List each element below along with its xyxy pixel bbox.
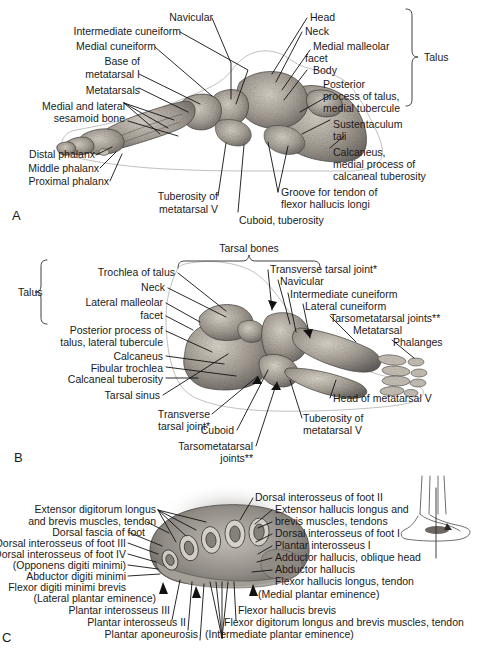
bracket-label-talus: Talus [424, 51, 449, 63]
label-sesamoid-line1: Medial and lateral [42, 100, 125, 112]
label-phalanges: Phalanges [393, 336, 443, 348]
panel-b-svg: Trochlea of talus Neck Lateral malleolar… [0, 230, 479, 470]
panel-letter-a: A [12, 208, 21, 223]
cuboid-mass [215, 119, 251, 146]
label-cuboid-tuberosity: Cuboid, tuberosity [239, 214, 324, 226]
label-ehl-eb-tendons-line1: Extensor hallucis longus and [275, 503, 409, 515]
label-proximal-phalanx: Proximal phalanx [28, 175, 109, 187]
label-dorsal-interosseus-i: Dorsal interosseus of foot I [275, 527, 400, 539]
label-base-of-metatarsal-i-line2: metatarsal I [85, 68, 140, 80]
label-posterior-process-line3: medial tubercule [323, 102, 400, 114]
phalanges-group-b [378, 354, 427, 397]
label-flexor-hallucis-longus-tendon: Flexor hallucis longus, tendon [275, 575, 414, 587]
label-distal-phalanx: Distal phalanx [29, 148, 96, 160]
panel-a-svg: Navicular Intermediate cuneiform Medial … [0, 0, 479, 230]
label-medial-cuneiform: Medial cuneiform [76, 40, 156, 52]
label-medial-malleolar-facet-line1: Medial malleolar [313, 40, 390, 52]
label-head-of-metatarsal-v: Head of metatarsal V [333, 392, 432, 404]
label-tarsometatarsal-joints-right: Tarsometatarsal joints** [330, 312, 440, 324]
label-plantar-interosseus-i: Plantar interosseus I [275, 539, 371, 551]
panel-a-medial-view: Navicular Intermediate cuneiform Medial … [0, 0, 479, 230]
label-medial-plantar-eminence: (Medial plantar eminence) [258, 588, 379, 600]
label-plantar-interosseus-iii: Plantar interosseus III [68, 604, 170, 616]
label-transverse-tarsal-joint-top: Transverse tarsal joint* [270, 263, 377, 275]
label-tuberosity-mt5-line1: Tuberosity of [158, 190, 218, 202]
label-lateral-cuneiform: Lateral cuneiform [305, 300, 386, 312]
label-edl-eb-tendon-line1: Extensor digitorum longus [35, 503, 156, 515]
label-fdl-fb-tendon: Flexor digitorum longus and brevis muscl… [224, 616, 464, 628]
label-base-of-metatarsal-i-line1: Base of [104, 55, 140, 67]
label-posterior-process-b-line2: talus, lateral tubercule [60, 336, 163, 348]
label-navicular-b: Navicular [280, 275, 324, 287]
arrowhead-intermediate-eminence [192, 586, 201, 598]
label-calcaneus-line2: medial process of [333, 158, 415, 170]
label-tuberosity-mt5-b-line2: metatarsal V [303, 424, 362, 436]
label-sustentaculum-tali-line2: tali [333, 130, 346, 142]
panel-letter-b: B [14, 450, 23, 465]
label-lateral-plantar-eminence: (Lateral plantar eminence) [33, 592, 156, 604]
label-tuberosity-mt5-line2: metatarsal V [159, 203, 218, 215]
label-medial-malleolar-facet-line2: facet [305, 52, 328, 64]
label-abductor-hallucis: Abductor hallucis [275, 563, 355, 575]
label-plantar-aponeurosis: Plantar aponeurosis [105, 628, 198, 640]
talus-neck-mass [238, 320, 265, 342]
label-calcaneus-line1: Calcaneus, [333, 146, 386, 158]
label-lateral-malleolar-facet-line1: Lateral malleolar [85, 296, 163, 308]
label-tarsometatarsal-joints-low-line1: Tarsometatarsal [178, 440, 253, 452]
bracket-label-talus-b: Talus [18, 286, 43, 298]
label-posterior-process-line1: Posterior [323, 78, 366, 90]
orientation-inset [397, 474, 475, 558]
label-adductor-hallucis-oblique-head: Adductor hallucis, oblique head [275, 551, 421, 563]
panel-letter-c: C [2, 630, 11, 645]
label-trochlea-of-talus: Trochlea of talus [98, 266, 175, 278]
label-calcaneus-line3: calcaneal tuberosity [333, 170, 427, 182]
panel-c-svg: Extensor digitorum longus and brevis mus… [0, 470, 479, 655]
label-intermediate-cuneiform-b: Intermediate cuneiform [290, 288, 398, 300]
label-plantar-interosseus-ii: Plantar interosseus II [87, 616, 186, 628]
panel-c-cross-section: Extensor digitorum longus and brevis mus… [0, 470, 479, 655]
label-sustentaculum-tali-line1: Sustentaculum [333, 118, 403, 130]
label-posterior-process-b-line1: Posterior process of [70, 324, 163, 336]
label-metatarsals: Metatarsals [86, 84, 140, 96]
label-sesamoid-line2: sesamoid bone [54, 112, 125, 124]
label-intermediate-plantar-eminence: (Intermediate plantar eminence) [205, 628, 354, 640]
label-tarsometatarsal-joints-low-line2: joints** [219, 452, 253, 464]
label-calcaneus-b: Calcaneus [113, 350, 163, 362]
bracket-label-tarsal-bones: Tarsal bones [219, 242, 279, 254]
label-body: Body [313, 64, 338, 76]
panel-b-lateral-view: Trochlea of talus Neck Lateral malleolar… [0, 230, 479, 470]
label-groove-fhl-line2: flexor hallucis longi [281, 198, 370, 210]
label-intermediate-cuneiform: Intermediate cuneiform [74, 25, 182, 37]
label-metatarsal: Metatarsal [353, 324, 402, 336]
label-cuboid-b: Cuboid [201, 424, 234, 436]
label-transverse-tarsal-joint-low-line1: Transverse [158, 408, 210, 420]
label-posterior-process-line2: process of talus, [323, 90, 399, 102]
label-neck-b: Neck [141, 281, 166, 293]
arrowhead-lateral-eminence [159, 582, 168, 594]
label-groove-fhl-line1: Groove for tendon of [281, 186, 377, 198]
label-head: Head [310, 11, 335, 23]
label-ehl-eb-tendons-line2: brevis muscles, tendons [275, 515, 388, 527]
label-middle-phalanx: Middle phalanx [28, 162, 99, 174]
label-dorsal-interosseus-ii: Dorsal interosseus of foot II [255, 491, 383, 503]
label-tarsal-sinus: Tarsal sinus [105, 389, 160, 401]
label-lateral-malleolar-facet-line2: facet [140, 309, 163, 321]
label-tuberosity-mt5-b-line1: Tuberosity of [303, 412, 363, 424]
label-flexor-hallucis-brevis: Flexor hallucis brevis [238, 604, 336, 616]
label-navicular: Navicular [169, 11, 213, 23]
label-calcaneal-tuberosity: Calcaneal tuberosity [68, 373, 164, 385]
arrowhead-transverse-tarsal-top [268, 300, 277, 310]
talus-brace-a [406, 9, 418, 106]
label-neck: Neck [305, 25, 330, 37]
